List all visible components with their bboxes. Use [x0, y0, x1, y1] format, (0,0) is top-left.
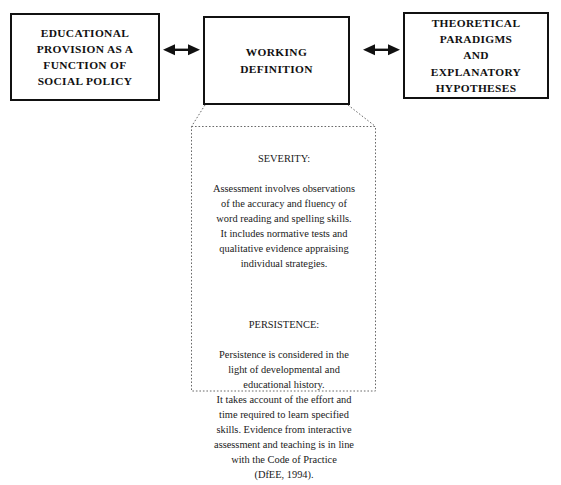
callout-persistence-body: Persistence is considered in the light o…: [193, 347, 375, 482]
callout-content: SEVERITY: Assessment involves observatio…: [193, 136, 375, 485]
box-educational-provision-label: EDUCATIONAL PROVISION AS A FUNCTION OF S…: [31, 25, 140, 90]
box-theoretical-paradigms-label: THEORETICAL PARADIGMS AND EXPLANATORY HY…: [425, 15, 527, 96]
box-educational-provision[interactable]: EDUCATIONAL PROVISION AS A FUNCTION OF S…: [10, 13, 160, 101]
box-theoretical-paradigms[interactable]: THEORETICAL PARADIGMS AND EXPLANATORY HY…: [403, 12, 549, 99]
callout-severity-body: Assessment involves observations of the …: [193, 181, 375, 271]
box-working-definition[interactable]: WORKING DEFINITION: [203, 16, 350, 105]
callout-severity-heading: SEVERITY:: [193, 151, 375, 166]
left-double-arrow: [163, 44, 200, 55]
box-working-definition-label: WORKING DEFINITION: [234, 44, 319, 76]
callout-persistence-heading: PERSISTENCE:: [193, 317, 375, 332]
right-double-arrow: [363, 44, 400, 55]
callout-section-gap: [193, 286, 375, 301]
